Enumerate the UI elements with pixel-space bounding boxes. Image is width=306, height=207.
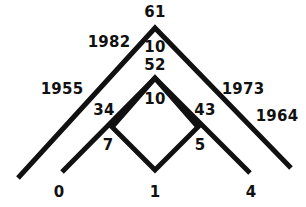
leaf-label-1: 1 bbox=[150, 185, 161, 200]
diagram-canvas: 61 10 52 10 34 43 7 5 1982 1955 1973 196… bbox=[0, 0, 306, 207]
leaf-label-4: 4 bbox=[246, 185, 257, 200]
node-label-root-edge: 10 bbox=[144, 40, 165, 55]
leaf-label-0: 0 bbox=[54, 185, 65, 200]
year-label-1982: 1982 bbox=[88, 35, 131, 50]
node-label-inner-apex: 52 bbox=[144, 58, 165, 73]
node-label-left-low: 7 bbox=[103, 138, 114, 153]
node-label-right-mid: 43 bbox=[194, 103, 215, 118]
node-label-right-low: 5 bbox=[195, 138, 206, 153]
node-label-left-mid: 34 bbox=[93, 103, 114, 118]
year-label-1973: 1973 bbox=[222, 82, 265, 97]
year-label-1964: 1964 bbox=[256, 109, 299, 124]
node-label-root: 61 bbox=[144, 5, 165, 20]
year-label-1955: 1955 bbox=[41, 82, 84, 97]
node-label-inner-apex-edge: 10 bbox=[144, 92, 165, 107]
